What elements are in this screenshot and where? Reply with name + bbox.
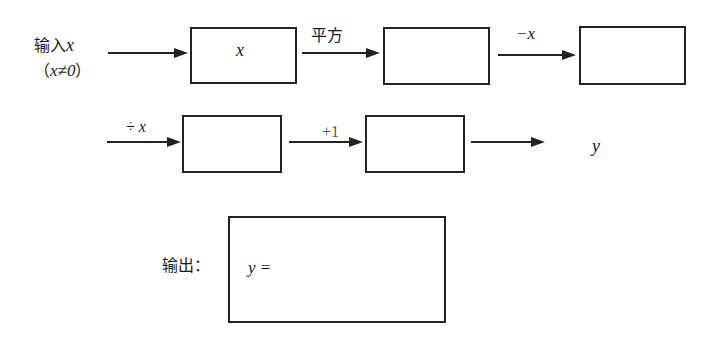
condition-close-paren: ） [75,61,91,80]
arrow-box2-to-box3 [498,49,578,61]
arrow-input-to-box1 [108,47,188,59]
result-y-label: y [592,137,600,155]
op-square-label: 平方 [311,28,343,44]
input-label: 输入x [34,36,74,54]
input-variable: x [66,35,74,55]
condition-open-paren: （ [34,61,50,80]
box-1-content: x [236,41,244,59]
op-divide-x-label: ÷ x [126,119,146,135]
box-5 [365,115,465,173]
input-label-text: 输入 [34,36,66,55]
arrow-box5-to-y [471,136,547,148]
output-label: 输出： [162,258,210,274]
box-1: x [190,27,297,84]
arrow-box1-to-box2 [302,47,382,59]
output-expression: y = [248,259,271,276]
box-2 [383,27,490,85]
box-4 [182,115,282,173]
arrow-to-box4 [107,136,183,148]
box-3 [579,26,686,85]
output-box: y = [228,216,446,323]
condition-text: x≠0 [50,61,75,80]
arrow-box4-to-box5 [289,136,365,148]
input-condition: （x≠0） [34,62,91,79]
op-minus-x-label: −x [516,25,535,42]
